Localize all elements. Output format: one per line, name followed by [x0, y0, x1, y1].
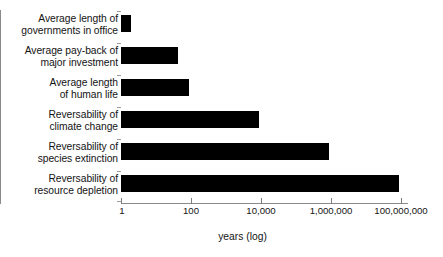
category-label-major-investment-payback: Average pay-back of major investment: [0, 45, 118, 69]
category-label-human-life: Average length of human life: [0, 77, 118, 101]
x-axis-title: years (log): [0, 231, 443, 242]
bar-major-investment-payback: [121, 47, 178, 64]
x-axis-line: [121, 203, 408, 204]
x-tick-label-1000000: 1,000,000: [310, 205, 353, 216]
category-label-climate-change: Reversability of climate change: [0, 109, 118, 133]
x-tick-label-1: 1: [119, 205, 124, 216]
category-label-species-extinction: Reversability of species extinction: [0, 141, 118, 165]
category-label-governments-in-office: Average length of governments in office: [0, 13, 118, 37]
bar-climate-change: [121, 111, 259, 128]
y-axis-minor-tick: [117, 43, 121, 44]
x-tick-label-100: 100: [183, 205, 199, 216]
x-axis-tick: [121, 198, 122, 204]
x-axis-tick: [331, 198, 332, 204]
bar-species-extinction: [121, 143, 329, 160]
x-axis-tick: [261, 198, 262, 204]
category-label-resource-depletion: Reversability of resource depletion: [0, 173, 118, 197]
y-axis-line: [0, 10, 1, 204]
x-axis-tick: [401, 198, 402, 204]
x-axis-tick: [191, 198, 192, 204]
x-tick-label-10000: 10,000: [246, 205, 275, 216]
bar-governments-in-office: [121, 15, 131, 32]
y-axis-minor-tick: [117, 171, 121, 172]
log-bar-chart: Average length of governments in office …: [0, 0, 443, 257]
x-tick-label-100000000: 100,000,000: [374, 205, 427, 216]
y-axis-minor-tick: [117, 11, 121, 12]
y-axis-minor-tick: [117, 75, 121, 76]
y-axis-minor-tick: [117, 139, 121, 140]
bar-resource-depletion: [121, 175, 399, 192]
bar-human-life: [121, 79, 189, 96]
y-axis-minor-tick: [117, 107, 121, 108]
